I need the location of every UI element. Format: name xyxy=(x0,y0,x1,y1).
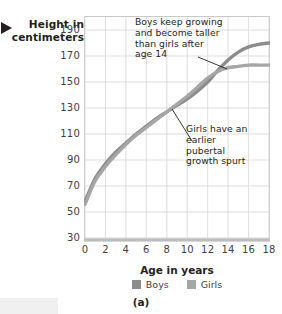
x-tick-label: 2 xyxy=(97,244,113,255)
y-tick-label: 130 xyxy=(52,102,80,113)
legend-label: Boys xyxy=(146,279,169,290)
x-tick-label: 6 xyxy=(138,244,154,255)
y-tick-label: 150 xyxy=(52,76,80,87)
x-tick-label: 4 xyxy=(118,244,134,255)
y-tick-label: 190 xyxy=(52,24,80,35)
x-tick-label: 8 xyxy=(159,244,175,255)
annotation-girls: Girls have an earlier pubertal growth sp… xyxy=(186,124,258,167)
figure-caption: (a) xyxy=(0,296,282,308)
y-tick-label: 170 xyxy=(52,50,80,61)
chart-legend: BoysGirls xyxy=(84,279,270,290)
growth-chart-figure: Height in centimeters 305070901101301501… xyxy=(0,0,282,314)
legend-item-girls: Girls xyxy=(187,279,223,290)
legend-label: Girls xyxy=(201,279,223,290)
y-tick-label: 110 xyxy=(52,128,80,139)
x-axis-bar xyxy=(84,239,270,242)
x-tick-label: 18 xyxy=(261,244,277,255)
annotation-boys: Boys keep growing and become taller than… xyxy=(135,17,223,60)
y-tick-label: 30 xyxy=(52,232,80,243)
legend-item-boys: Boys xyxy=(132,279,169,290)
legend-swatch-icon xyxy=(132,280,141,289)
legend-swatch-icon xyxy=(187,280,196,289)
y-tick-label: 70 xyxy=(52,180,80,191)
x-tick-label: 16 xyxy=(241,244,257,255)
x-tick-label: 10 xyxy=(179,244,195,255)
x-tick-label: 14 xyxy=(220,244,236,255)
x-axis-title-label: Age in years xyxy=(84,264,270,276)
y-tick-label: 50 xyxy=(52,206,80,217)
y-tick-label: 90 xyxy=(52,154,80,165)
x-tick-label: 12 xyxy=(200,244,216,255)
x-tick-label: 0 xyxy=(77,244,93,255)
